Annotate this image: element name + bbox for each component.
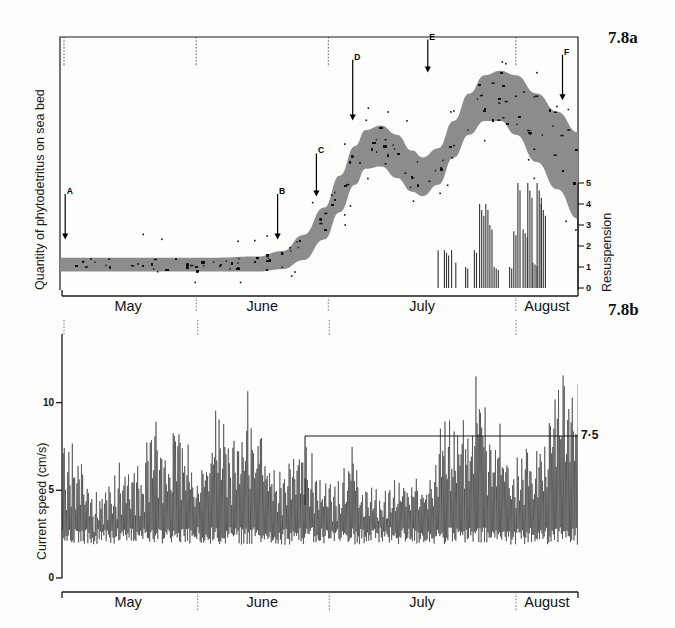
panel-a [60, 37, 584, 312]
resuspension-tick-0: 0 [586, 283, 591, 293]
arrow-label-C: C [318, 145, 324, 155]
panel-b-month-may: May [60, 594, 196, 610]
panel-b-top-separators [64, 320, 516, 336]
panel-b [56, 320, 578, 612]
arrow-head-D [350, 115, 356, 121]
arrow-label-E: E [429, 32, 435, 42]
panel-b-month-august: August [516, 594, 578, 610]
resuspension-tick-4: 4 [586, 199, 591, 209]
panel-a-month-axis [62, 290, 578, 296]
arrow-head-F [559, 94, 565, 100]
resuspension-tick-3: 3 [586, 220, 591, 230]
resuspension-spikes [438, 183, 545, 288]
resuspension-axis-ticks [578, 183, 584, 288]
phytodetritus-band [60, 71, 578, 272]
panel-b-month-july: July [328, 594, 516, 610]
panel-a-month-july: July [328, 298, 516, 314]
current-speed-trace [62, 375, 578, 544]
panel-b-tick-0: 0 [38, 572, 54, 583]
resuspension-tick-1: 1 [586, 262, 591, 272]
arrow-label-A: A [67, 186, 73, 196]
panel-a-month-may: May [60, 298, 196, 314]
panel-a-month-separators [64, 37, 516, 67]
figure-svg [0, 0, 675, 628]
threshold-value-label: 7·5 [581, 428, 598, 442]
panel-a-month-june: June [196, 298, 328, 314]
arrow-label-D: D [354, 52, 360, 62]
resuspension-tick-5: 5 [586, 178, 591, 188]
event-arrows [62, 40, 565, 240]
arrow-label-B: B [279, 186, 285, 196]
arrow-head-B [275, 233, 281, 239]
arrow-label-F: F [564, 47, 569, 57]
arrow-head-E [425, 66, 431, 72]
panel-a-month-august: August [516, 298, 578, 314]
panel-b-y-ticks [56, 403, 62, 578]
panel-b-tick-10: 10 [38, 397, 54, 408]
arrow-head-A [62, 233, 68, 239]
panel-b-tick-5: 5 [38, 484, 54, 495]
resuspension-tick-2: 2 [586, 241, 591, 251]
panel-b-month-june: June [196, 594, 328, 610]
figure-container: 7.8a 7.8b Quantity of phytodetritus on s… [0, 0, 675, 628]
arrow-head-C [313, 190, 319, 196]
